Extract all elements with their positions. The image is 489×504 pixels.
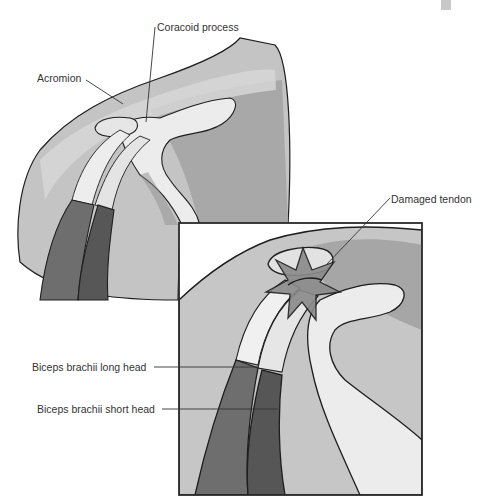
- label-acromion: Acromion: [37, 72, 81, 84]
- inset-magnified-view: [179, 223, 422, 495]
- label-coracoid-process: Coracoid process: [157, 21, 239, 33]
- label-damaged-tendon: Damaged tendon: [391, 193, 472, 205]
- top-edge-artifact: [441, 0, 451, 10]
- label-biceps-short-head: Biceps brachii short head: [37, 403, 155, 415]
- label-biceps-long-head: Biceps brachii long head: [32, 361, 146, 373]
